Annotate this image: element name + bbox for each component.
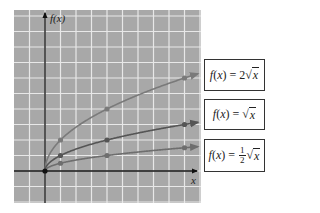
legend-item-sqrtx: f(x) = √x	[204, 99, 265, 130]
data-point	[104, 106, 109, 111]
origin-point	[42, 168, 47, 173]
legend-2sqrtx-prefix: f(x) = 2	[210, 68, 245, 83]
data-point	[182, 145, 187, 150]
legend-half-sqrtx-prefix: f(x) =	[209, 148, 238, 163]
legend-item-2sqrtx: f(x) = 2√x	[204, 59, 265, 91]
x-axis-label: x	[190, 174, 196, 186]
fraction-one-half: 12	[239, 146, 246, 165]
data-point	[182, 75, 187, 80]
data-point	[104, 137, 109, 142]
legend-item-half-sqrtx: f(x) = 12√x	[204, 139, 265, 172]
y-axis-label: f(x)	[50, 12, 66, 25]
data-point	[58, 153, 63, 158]
legend-sqrtx-prefix: f(x) =	[213, 107, 242, 122]
data-point	[104, 153, 109, 158]
data-point	[182, 122, 187, 127]
data-point	[58, 137, 63, 142]
legend-sqrtx-radicand: x	[249, 107, 256, 123]
legend-2sqrtx-radicand: x	[252, 67, 259, 83]
legend-half-sqrtx-radicand: x	[253, 148, 260, 164]
data-point	[58, 161, 63, 166]
